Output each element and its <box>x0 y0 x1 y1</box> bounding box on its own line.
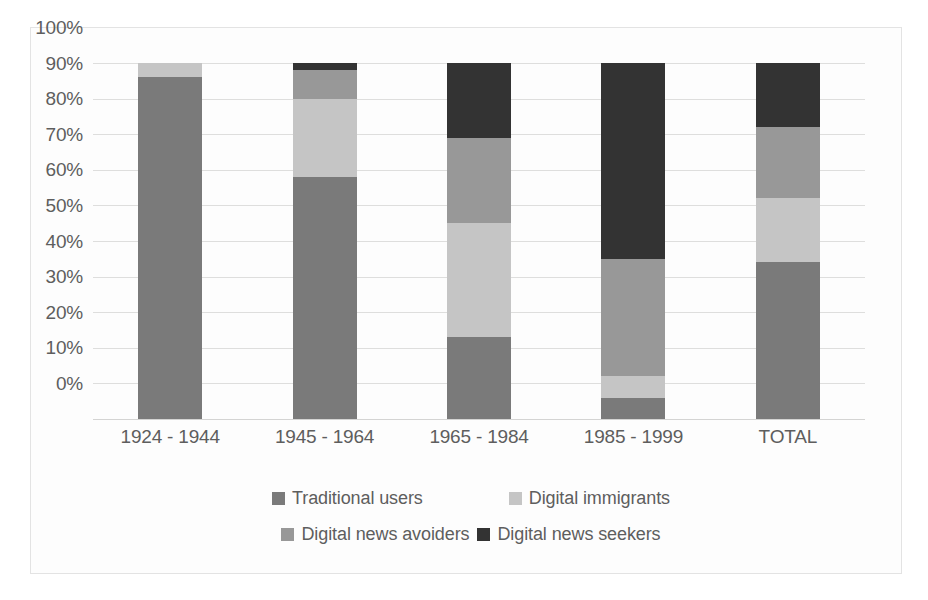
y-axis-tick-label: 10% <box>46 337 83 359</box>
bar-segment[interactable] <box>293 177 357 419</box>
y-axis-tick-label: 100% <box>35 17 83 39</box>
bar-segment[interactable] <box>756 198 820 262</box>
y-axis-tick-label: 0% <box>56 373 83 395</box>
x-axis-tick-label: TOTAL <box>711 426 865 448</box>
legend-item-traditional-users[interactable]: Traditional users <box>272 488 423 509</box>
stacked-bar[interactable] <box>293 63 357 419</box>
chart-frame: 100%90%80%70%60%50%40%30%20%10%0% 1924 -… <box>30 27 902 574</box>
bar-segment[interactable] <box>601 63 665 259</box>
stacked-bar[interactable] <box>447 63 511 419</box>
legend-row-1: Traditional users Digital immigrants <box>151 480 791 516</box>
bar-segment[interactable] <box>447 223 511 337</box>
bar-segment[interactable] <box>756 127 820 198</box>
stacked-bar[interactable] <box>601 63 665 419</box>
legend-item-digital-news-seekers[interactable]: Digital news seekers <box>477 524 660 545</box>
bar-segment[interactable] <box>601 376 665 397</box>
chart-legend: Traditional users Digital immigrants Dig… <box>151 480 791 552</box>
y-axis-tick-label: 80% <box>46 88 83 110</box>
legend-label-digital-immigrants: Digital immigrants <box>529 488 670 509</box>
stacked-bar[interactable] <box>756 63 820 419</box>
bar-group <box>93 63 247 419</box>
bar-segment[interactable] <box>293 70 357 98</box>
y-axis-tick-label: 60% <box>46 159 83 181</box>
legend-label-digital-news-avoiders: Digital news avoiders <box>301 524 469 545</box>
x-axis: 1924 - 19441945 - 19641965 - 19841985 - … <box>93 426 865 448</box>
legend-swatch-icon-traditional-users <box>272 492 285 505</box>
bar-group <box>247 63 401 419</box>
bar-group <box>402 63 556 419</box>
y-axis: 100%90%80%70%60%50%40%30%20%10%0% <box>31 28 93 573</box>
legend-label-digital-news-seekers: Digital news seekers <box>497 524 660 545</box>
stacked-bar[interactable] <box>138 63 202 419</box>
legend-item-digital-immigrants[interactable]: Digital immigrants <box>509 488 670 509</box>
y-axis-tick-label: 70% <box>46 124 83 146</box>
x-axis-tick-label: 1945 - 1964 <box>247 426 401 448</box>
x-axis-tick-label: 1985 - 1999 <box>556 426 710 448</box>
y-axis-tick-label: 50% <box>46 195 83 217</box>
legend-swatch-icon-digital-news-seekers <box>477 528 490 541</box>
x-axis-tick-label: 1924 - 1944 <box>93 426 247 448</box>
y-axis-tick-label: 90% <box>46 53 83 75</box>
bar-segment[interactable] <box>447 138 511 223</box>
bar-segment[interactable] <box>293 99 357 177</box>
bar-segment[interactable] <box>138 63 202 77</box>
bar-segment[interactable] <box>756 262 820 419</box>
bars-group <box>93 63 865 419</box>
legend-row-2: Digital news avoiders Digital news seeke… <box>151 516 791 552</box>
bar-segment[interactable] <box>138 77 202 419</box>
y-axis-tick-label: 30% <box>46 266 83 288</box>
bar-segment[interactable] <box>601 398 665 419</box>
x-axis-tick-label: 1965 - 1984 <box>402 426 556 448</box>
y-axis-tick-label: 40% <box>46 231 83 253</box>
y-axis-tick-label: 20% <box>46 302 83 324</box>
bar-segment[interactable] <box>447 63 511 138</box>
bar-group <box>711 63 865 419</box>
legend-swatch-icon-digital-immigrants <box>509 492 522 505</box>
bar-segment[interactable] <box>293 63 357 70</box>
gridline <box>93 419 865 420</box>
bar-segment[interactable] <box>601 259 665 376</box>
bar-segment[interactable] <box>756 63 820 127</box>
legend-label-traditional-users: Traditional users <box>292 488 423 509</box>
bar-group <box>556 63 710 419</box>
bar-segment[interactable] <box>447 337 511 419</box>
legend-swatch-icon-digital-news-avoiders <box>281 528 294 541</box>
legend-item-digital-news-avoiders[interactable]: Digital news avoiders <box>281 524 469 545</box>
